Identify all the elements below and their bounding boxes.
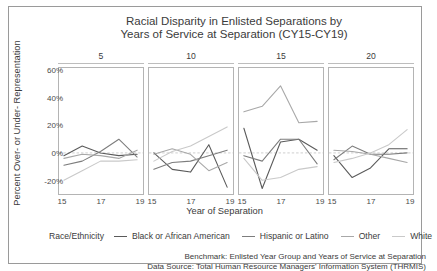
x-tick-15-17: 17 <box>274 197 288 206</box>
legend-swatch-icon-3 <box>392 236 405 237</box>
facet-strip-label-20: 20 <box>328 49 414 64</box>
x-tick-20-19: 19 <box>403 197 417 206</box>
y-axis-title: Percent Over- or Under- Representation <box>12 23 22 223</box>
legend-label-0: Black or African American <box>132 231 230 241</box>
legend-label-1: Hispanic or Latino <box>260 231 329 241</box>
y-tick-20: 20% <box>29 121 63 130</box>
chart-footer: Benchmark: Enlisted Year Group and Years… <box>9 252 432 271</box>
legend-label-2: Other <box>359 231 381 241</box>
facet-panel-5 <box>58 67 144 195</box>
series-line-20-3 <box>334 130 407 163</box>
legend: Race/Ethnicity Black or African American… <box>49 229 409 243</box>
chart-title-line-2: Years of Service at Separation (CY15-CY1… <box>49 28 419 41</box>
x-tick-20-15: 15 <box>325 197 339 206</box>
x-axis-title: Year of Separation <box>9 206 437 216</box>
facet-strip-label-5: 5 <box>58 49 144 64</box>
y-tick--20: -20% <box>29 177 63 186</box>
chart-title: Racial Disparity in Enlisted Separations… <box>49 15 419 41</box>
chart-title-line-1: Racial Disparity in Enlisted Separations… <box>49 15 419 28</box>
chart-frame: Racial Disparity in Enlisted Separations… <box>8 6 422 264</box>
y-tick-40: 40% <box>29 93 63 102</box>
legend-title: Race/Ethnicity <box>49 231 104 241</box>
legend-label-3: White <box>410 231 432 241</box>
x-tick-20-17: 17 <box>364 197 378 206</box>
x-tick-5-15: 15 <box>55 197 69 206</box>
x-tick-15-15: 15 <box>235 197 249 206</box>
footer-data-source: Data Source: Total Human Resource Manage… <box>9 262 426 271</box>
legend-item-2[interactable]: Other <box>341 231 381 241</box>
y-tick-60: 60% <box>29 65 63 74</box>
x-tick-10-15: 15 <box>145 197 159 206</box>
legend-swatch-icon-0 <box>114 236 127 237</box>
series-line-10-3 <box>154 127 227 161</box>
facet-panel-15 <box>238 67 324 195</box>
facet-strip-label-15: 15 <box>238 49 324 64</box>
facet-panel-10 <box>148 67 234 195</box>
series-line-10-2 <box>154 149 227 171</box>
y-tick-0: 0% <box>29 149 63 158</box>
footer-benchmark: Benchmark: Enlisted Year Group and Years… <box>9 252 426 262</box>
x-tick-5-17: 17 <box>94 197 108 206</box>
facet-strip-label-10: 10 <box>148 49 234 64</box>
legend-item-0[interactable]: Black or African American <box>114 231 230 241</box>
facet-panel-20 <box>328 67 414 195</box>
series-line-5-0 <box>64 146 137 156</box>
legend-swatch-icon-1 <box>242 236 255 237</box>
legend-item-1[interactable]: Hispanic or Latino <box>242 231 329 241</box>
legend-item-3[interactable]: White <box>392 231 432 241</box>
series-line-15-2 <box>244 86 317 123</box>
legend-swatch-icon-2 <box>341 236 354 237</box>
x-tick-10-17: 17 <box>184 197 198 206</box>
series-line-15-3 <box>244 158 317 180</box>
